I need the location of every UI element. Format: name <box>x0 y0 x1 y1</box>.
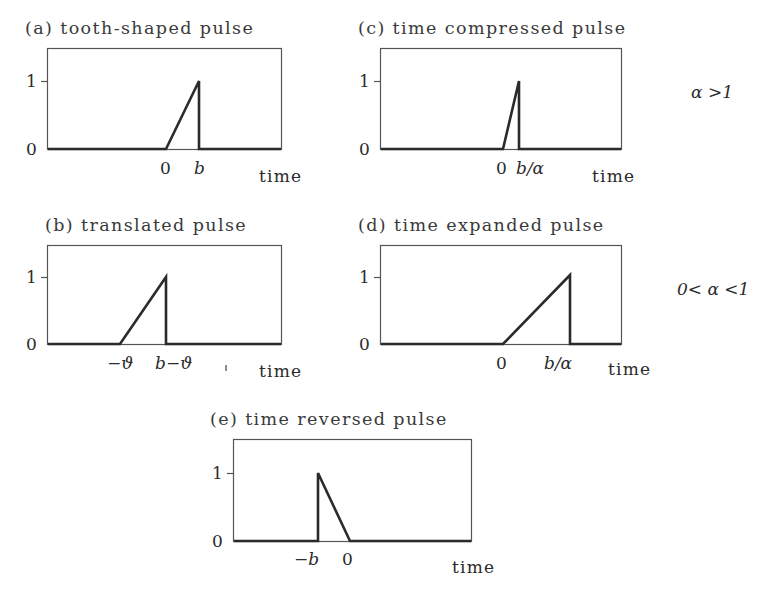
panel-e-xlabel-first: −b <box>294 549 319 569</box>
panel-e-xlabel-second: 0 <box>342 549 353 569</box>
panel-e-time-label: time <box>452 557 495 577</box>
panel-e-pulse-curve <box>234 473 471 541</box>
panel-e-frame <box>234 440 472 542</box>
figure-canvas: (a) tooth-shaped pulse 1 0 0 b time (c) … <box>0 0 778 601</box>
panel-e-plot <box>0 0 778 601</box>
panel-e-ylabel-1: 1 <box>212 463 223 483</box>
panel-e-ylabel-0: 0 <box>212 531 223 551</box>
